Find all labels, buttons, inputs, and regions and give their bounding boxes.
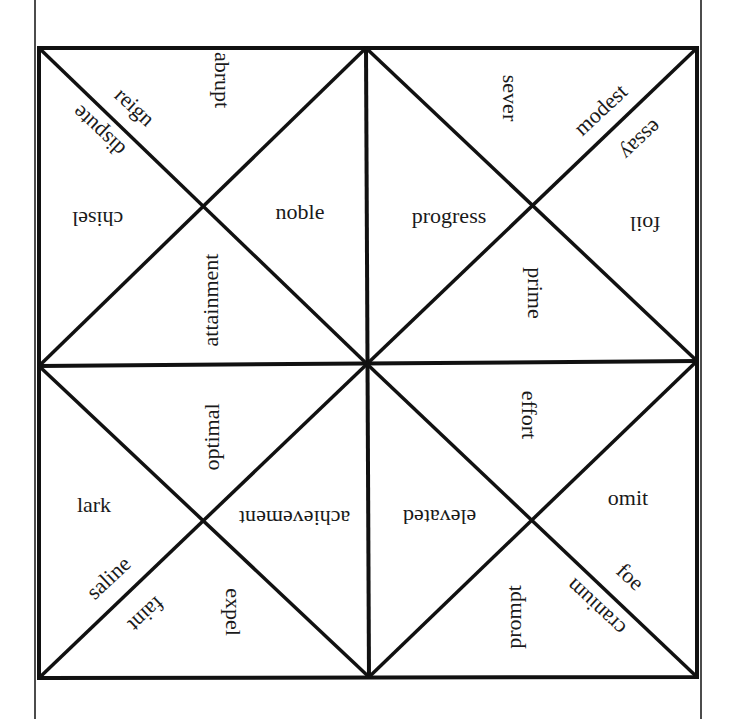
word-effort: effort: [518, 391, 540, 439]
word-expel: expel: [222, 588, 244, 636]
word-noble: noble: [276, 201, 325, 223]
word-achievement: achievement: [239, 507, 350, 529]
word-prompt: prompt: [503, 585, 525, 649]
word-omit: omit: [608, 487, 648, 509]
word-progress: progress: [412, 205, 487, 227]
word-foil: foil: [630, 213, 661, 235]
word-sever: sever: [499, 75, 521, 121]
word-optimal: optimal: [201, 403, 223, 470]
word-lark: lark: [77, 494, 111, 516]
word-abrupt: abrupt: [211, 52, 233, 108]
word-attainment: attainment: [200, 254, 222, 347]
word-elevated: elevated: [403, 506, 476, 528]
word-prime: prime: [524, 267, 546, 318]
puzzle-grid: [0, 0, 736, 719]
word-chisel: chisel: [72, 208, 123, 230]
